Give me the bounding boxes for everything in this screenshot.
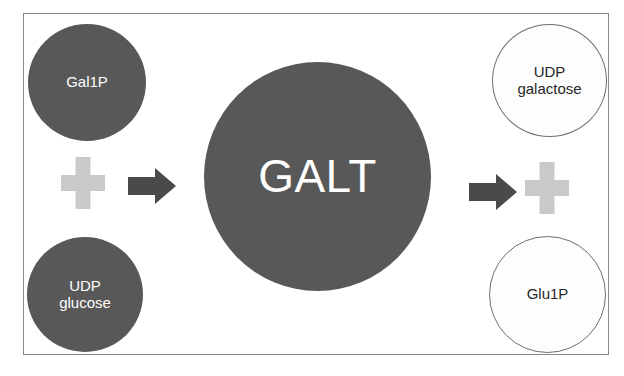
node-substrate-gal1p[interactable]: Gal1P (28, 24, 146, 141)
plus-sign-right-horizontal-bar (525, 180, 569, 196)
node-enzyme-galt-label: GALT (258, 151, 377, 203)
arrow-right-left-icon (128, 166, 176, 206)
plus-sign-left-horizontal-bar (61, 175, 105, 191)
node-substrate-udp-glucose-label: UDP glucose (59, 278, 111, 312)
node-product-udp-galactose[interactable]: UDP galactose (492, 24, 607, 137)
node-substrate-gal1p-label: Gal1P (66, 74, 108, 91)
diagram-canvas: Gal1P UDP glucose GALT UDP galactose Glu… (0, 0, 624, 376)
node-substrate-udp-glucose[interactable]: UDP glucose (27, 237, 143, 352)
arrow-right-right-icon (469, 172, 517, 212)
node-product-glu1p-label: Glu1P (527, 286, 569, 303)
plus-sign-left-icon (61, 157, 105, 209)
node-enzyme-galt[interactable]: GALT (204, 62, 431, 291)
node-product-glu1p[interactable]: Glu1P (489, 236, 606, 353)
plus-sign-right-icon (525, 162, 569, 214)
node-product-udp-galactose-label: UDP galactose (517, 64, 581, 98)
